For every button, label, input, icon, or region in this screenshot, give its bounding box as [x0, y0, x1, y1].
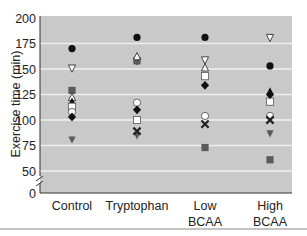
x-category-label: Tryptophan	[106, 199, 169, 213]
y-tick-label: 0	[29, 187, 36, 201]
marker-grey-square	[266, 156, 273, 163]
marker-filled-circle	[133, 34, 140, 41]
x-category-label: BCAA	[253, 215, 288, 229]
marker-filled-circle	[201, 34, 208, 41]
x-category-label: Low	[194, 199, 218, 213]
marker-open-square	[266, 98, 273, 105]
y-tick-label: 75	[22, 139, 36, 153]
y-tick-label: 175	[15, 37, 36, 51]
marker-open-circle	[201, 112, 208, 119]
x-category-label: BCAA	[188, 215, 223, 229]
marker-open-square	[133, 116, 140, 123]
marker-filled-circle	[266, 62, 273, 69]
y-tick-label: 200	[15, 12, 36, 26]
y-tick-label: 50	[22, 165, 36, 179]
marker-filled-circle	[68, 45, 75, 52]
marker-open-square	[201, 73, 208, 80]
y-axis-label: Exercise time (min)	[9, 51, 23, 158]
exercise-time-chart: 05075100125150175200 Exercise time (min)…	[0, 0, 307, 236]
x-category-label: Control	[52, 199, 92, 213]
x-category-labels: ControlTryptophanLowBCAAHighBCAA	[52, 199, 288, 229]
marker-grey-square	[201, 144, 208, 151]
plot-area	[40, 16, 292, 193]
marker-open-circle	[133, 99, 140, 106]
x-category-label: High	[257, 199, 283, 213]
